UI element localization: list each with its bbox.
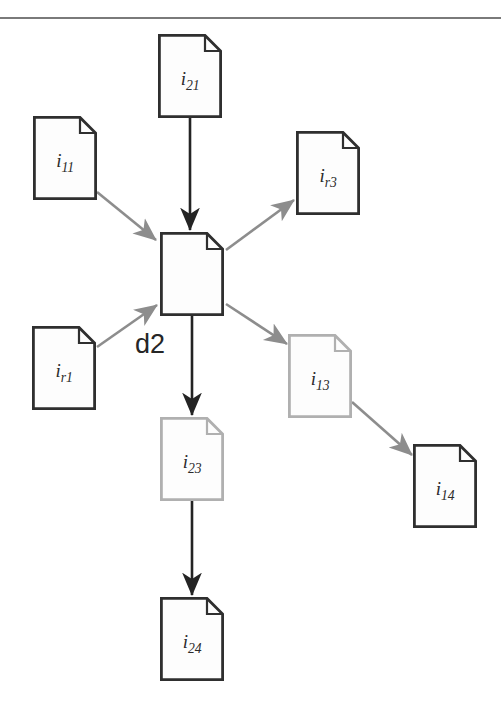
label-subscript: 21 [186,78,199,93]
document-node-ir3[interactable]: ir3 [296,131,360,215]
document-node-label-i23: i23 [160,451,224,477]
document-node-i11[interactable]: i11 [33,116,97,200]
diagram-canvas: i21i11ir3ir1i13i23i14i24 d2 [0,0,501,709]
edge-i11-center [97,192,156,240]
label-subscript: 13 [316,378,329,393]
document-node-center[interactable] [160,232,224,316]
center-node-tag: d2 [135,329,165,360]
document-node-i13[interactable]: i13 [288,334,352,418]
document-node-label-i21: i21 [158,68,222,94]
label-subscript: r1 [61,370,73,385]
document-node-ir1[interactable]: ir1 [32,326,96,410]
document-node-label-i14: i14 [413,478,477,504]
label-subscript: 14 [441,488,454,503]
label-subscript: 24 [188,641,201,656]
label-subscript: 11 [62,160,74,175]
label-subscript: 23 [188,461,201,476]
edge-center-i13 [226,304,287,344]
document-node-i23[interactable]: i23 [160,417,224,501]
document-node-i14[interactable]: i14 [413,444,477,528]
document-node-label-i11: i11 [33,150,97,176]
document-node-label-ir3: ir3 [296,165,360,191]
edge-i13-i14 [352,402,412,455]
document-node-i24[interactable]: i24 [160,597,224,681]
document-icon [160,232,224,316]
document-node-label-i13: i13 [288,368,352,394]
document-node-label-i24: i24 [160,631,224,657]
edge-center-ir3 [226,200,294,250]
document-node-label-ir1: ir1 [32,360,96,386]
document-node-i21[interactable]: i21 [158,34,222,118]
label-subscript: r3 [325,175,337,190]
